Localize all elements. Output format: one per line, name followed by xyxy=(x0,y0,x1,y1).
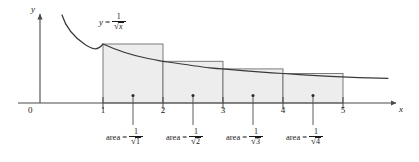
area-label-3-text: area xyxy=(226,133,240,142)
area-label-2-equals: = xyxy=(182,133,187,142)
area-label-2-denominator: √ 2 xyxy=(189,137,203,146)
radical: √ x xyxy=(114,22,124,31)
curve-equation-label: y = 1 √ x xyxy=(99,13,126,31)
area-label-3-fraction: 1 √ 3 xyxy=(249,128,263,146)
curve-equation-numerator: 1 xyxy=(115,13,123,21)
radicand: 2 xyxy=(195,137,201,146)
area-label-1-fraction: 1 √ 1 xyxy=(129,128,143,146)
x-tick-label-1: 1 xyxy=(98,106,108,115)
area-label-2: area = 1 √ 2 xyxy=(166,128,203,146)
area-label-1-equals: = xyxy=(122,133,127,142)
area-label-3-denominator: √ 3 xyxy=(249,137,263,146)
area-label-4: area = 1 √ 4 xyxy=(286,128,323,146)
area-pointer-dot-2 xyxy=(192,94,195,97)
area-label-3-equals: = xyxy=(242,133,247,142)
area-label-1-denominator: √ 1 xyxy=(129,137,143,146)
radicand: x xyxy=(118,22,124,31)
area-label-1: area = 1 √ 1 xyxy=(106,128,143,146)
radicand: 1 xyxy=(135,137,141,146)
radical: √ 1 xyxy=(131,137,141,146)
area-label-2-numerator: 1 xyxy=(192,128,200,136)
curve-equation-equals: = xyxy=(105,18,110,27)
area-label-4-numerator: 1 xyxy=(312,128,320,136)
radicand: 3 xyxy=(255,137,261,146)
area-pointer-dot-4 xyxy=(312,94,315,97)
area-label-1-numerator: 1 xyxy=(132,128,140,136)
radical: √ 2 xyxy=(191,137,201,146)
area-label-1-text: area xyxy=(106,133,120,142)
curve-equation-fraction: 1 √ x xyxy=(112,13,126,31)
curve-equation-denominator: √ x xyxy=(112,22,126,31)
x-tick-label-3: 3 xyxy=(218,106,228,115)
area-pointer-dot-3 xyxy=(252,94,255,97)
figure-svg xyxy=(0,0,419,162)
x-tick-label-2: 2 xyxy=(158,106,168,115)
figure-container: y x 0 1 2 3 4 5 y = 1 √ x area = 1 xyxy=(0,0,419,162)
y-axis-label: y xyxy=(31,5,35,14)
area-label-3-numerator: 1 xyxy=(252,128,260,136)
area-label-4-denominator: √ 4 xyxy=(309,137,323,146)
area-label-2-text: area xyxy=(166,133,180,142)
riemann-rectangles xyxy=(103,44,343,103)
radicand: 4 xyxy=(315,137,321,146)
radical: √ 3 xyxy=(251,137,261,146)
x-tick-label-4: 4 xyxy=(278,106,288,115)
area-label-4-fraction: 1 √ 4 xyxy=(309,128,323,146)
area-label-2-fraction: 1 √ 2 xyxy=(189,128,203,146)
area-label-4-equals: = xyxy=(302,133,307,142)
area-pointer-dot-1 xyxy=(132,94,135,97)
curve-equation-lhs: y xyxy=(99,18,103,27)
area-label-4-text: area xyxy=(286,133,300,142)
origin-label: 0 xyxy=(28,106,33,115)
x-axis-label: x xyxy=(399,105,403,114)
x-tick-label-5: 5 xyxy=(338,106,348,115)
area-label-3: area = 1 √ 3 xyxy=(226,128,263,146)
radical: √ 4 xyxy=(311,137,321,146)
